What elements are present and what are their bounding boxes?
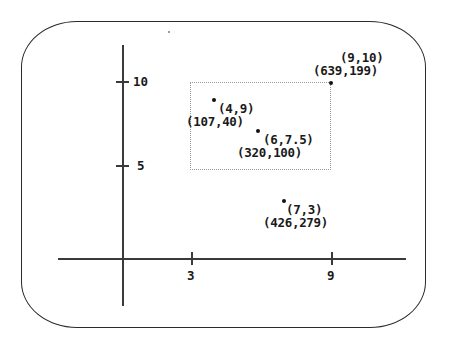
data-point-label-4-9: (4,9) (107,40) — [186, 103, 254, 128]
data-point-9-10[interactable] — [329, 81, 333, 85]
data-point-label-9-10: (9,10) (639,199) — [313, 52, 383, 77]
label-device-coords: (426,279) — [263, 217, 328, 230]
label-device-coords: (107,40) — [186, 116, 254, 129]
data-point-label-7-3: (7,3) (426,279) — [263, 204, 328, 229]
label-device-coords: (639,199) — [313, 65, 383, 78]
y-tick-label-10: 10 — [133, 74, 148, 89]
x-tick-9 — [331, 252, 333, 265]
x-tick-label-3: 3 — [187, 268, 195, 283]
y-tick-label-5: 5 — [137, 158, 145, 173]
y-tick-5 — [116, 165, 129, 167]
label-device-coords: (320,100) — [237, 147, 314, 160]
data-point-label-6-7_5: (6,7.5) (320,100) — [237, 134, 314, 159]
x-tick-label-9: 9 — [327, 268, 335, 283]
y-axis-line — [122, 45, 124, 306]
x-axis-line — [58, 258, 406, 260]
scatter-plot: 10 5 3 9 (9,10) (639,199) (4,9) (107,40)… — [0, 0, 451, 349]
x-tick-3 — [191, 252, 193, 265]
screen-speck-artifact — [168, 31, 170, 33]
y-tick-10 — [116, 81, 129, 83]
